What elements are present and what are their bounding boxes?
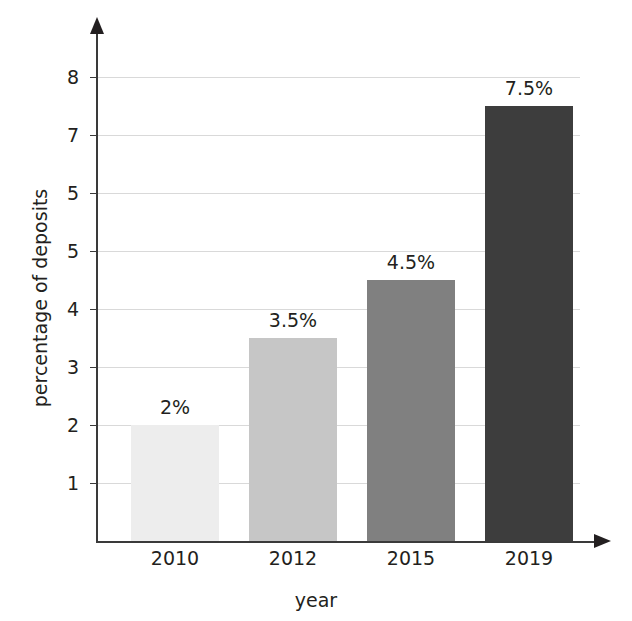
y-axis-line [96, 30, 98, 542]
x-category-label-2010: 2010 [151, 549, 199, 568]
x-category-label-2015: 2015 [387, 549, 435, 568]
y-tick-label-2: 2 [67, 416, 79, 435]
y-tick-label-7: 7 [67, 126, 79, 145]
bar-group-2015: 4.5% [367, 280, 455, 541]
y-tick-label-8: 8 [67, 68, 79, 87]
bar-2015 [367, 280, 455, 541]
bar-value-label-2019: 7.5% [505, 79, 553, 98]
x-axis-line [96, 541, 596, 543]
bar-group-2012: 3.5% [249, 338, 337, 541]
bar-value-label-2012: 3.5% [269, 311, 317, 330]
bar-2019 [485, 106, 573, 541]
bar-group-2019: 7.5% [485, 106, 573, 541]
bar-2012 [249, 338, 337, 541]
x-axis-arrow-icon [594, 534, 611, 548]
bar-2010 [131, 425, 219, 541]
y-tick-label-3: 3 [67, 358, 79, 377]
x-axis-category-labels: 2010 2012 2015 2019 [97, 549, 595, 583]
y-axis-title: percentage of deposits [29, 108, 51, 488]
bar-value-label-2015: 4.5% [387, 253, 435, 272]
x-category-label-2012: 2012 [269, 549, 317, 568]
bar-chart-figure: 8 7 5 5 4 3 2 1 2% [0, 0, 632, 621]
y-axis-arrow-icon [90, 17, 104, 34]
y-tick-label-1: 1 [67, 474, 79, 493]
x-category-label-2019: 2019 [505, 549, 553, 568]
bar-group-2010: 2% [131, 425, 219, 541]
x-axis-title: year [0, 589, 632, 611]
y-tick-label-6: 5 [67, 184, 79, 203]
bar-value-label-2010: 2% [160, 398, 190, 417]
y-tick-label-5: 5 [67, 242, 79, 261]
y-tick-label-4: 4 [67, 300, 79, 319]
bars-layer: 2% 3.5% 4.5% 7.5% [97, 30, 595, 541]
